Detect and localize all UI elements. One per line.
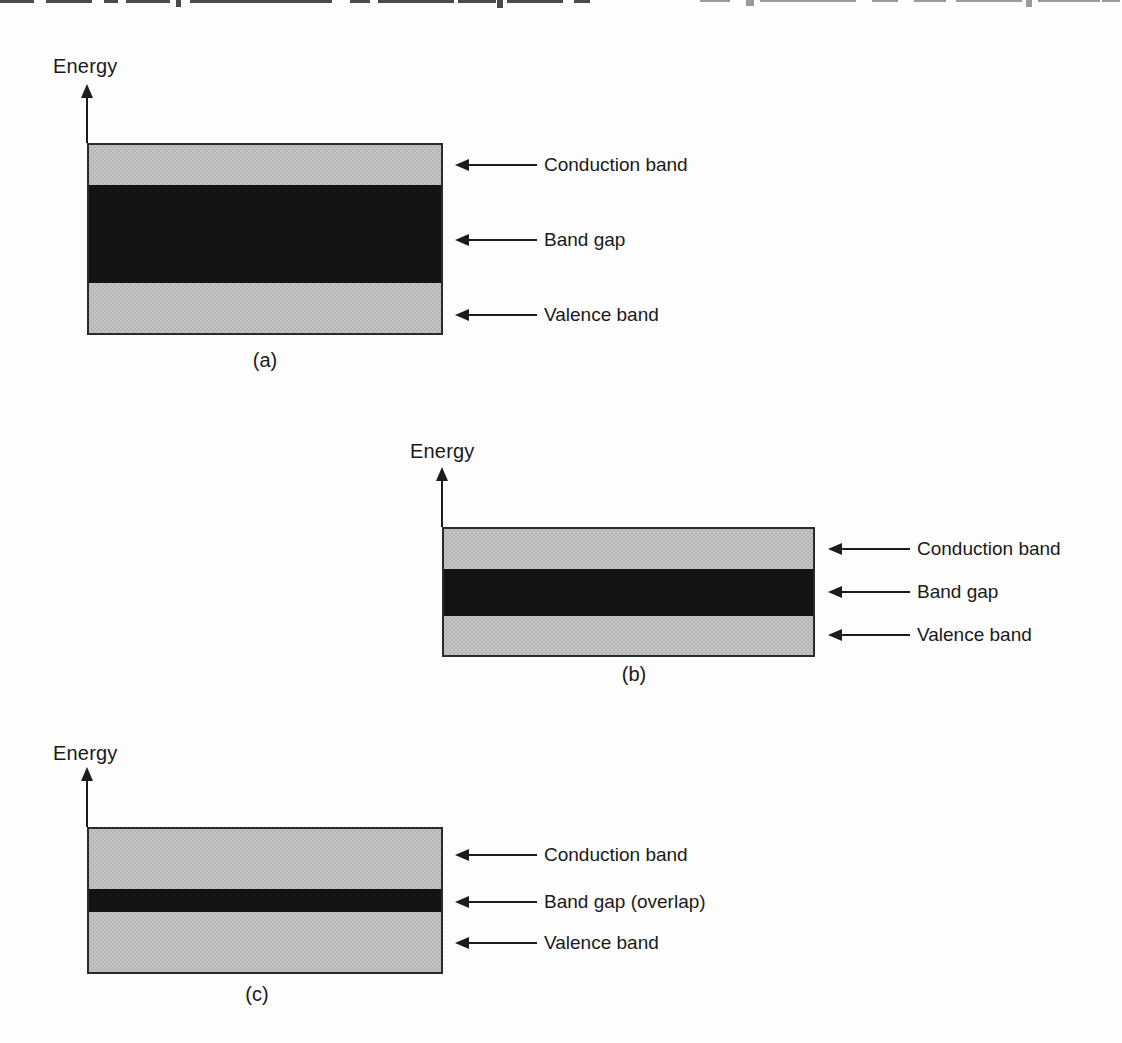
conduction-band-callout: Conduction band [828, 538, 1061, 560]
band-structure-rectangle [87, 827, 443, 974]
conduction-band-region [89, 829, 441, 889]
band-gap-callout: Band gap [455, 229, 625, 251]
valence-band-label: Valence band [544, 304, 659, 326]
energy-axis-label: Energy [53, 742, 118, 765]
left-arrow-icon [828, 629, 910, 641]
left-arrow-icon [455, 159, 537, 171]
valence-band-region [89, 912, 441, 972]
band-gap-overlap-label: Band gap (overlap) [544, 891, 706, 913]
conduction-band-label: Conduction band [544, 154, 688, 176]
left-arrow-icon [455, 937, 537, 949]
scanned-figure-page: Energy Conduction band Band gap Valence … [0, 0, 1122, 1043]
valence-band-label: Valence band [544, 932, 659, 954]
energy-axis-label: Energy [53, 55, 118, 78]
left-arrow-icon [455, 234, 537, 246]
energy-axis-line [441, 479, 443, 527]
valence-band-region [444, 616, 813, 655]
conduction-band-region [89, 145, 441, 185]
band-gap-region [89, 185, 441, 283]
conduction-band-callout: Conduction band [455, 844, 688, 866]
band-gap-callout: Band gap [828, 581, 998, 603]
left-arrow-icon [828, 586, 910, 598]
valence-band-callout: Valence band [455, 932, 659, 954]
valence-band-callout: Valence band [828, 624, 1032, 646]
band-gap-overlap-callout: Band gap (overlap) [455, 891, 706, 913]
energy-axis-line [86, 779, 88, 827]
conduction-band-label: Conduction band [544, 844, 688, 866]
subfigure-caption-c: (c) [240, 983, 274, 1006]
conduction-band-label: Conduction band [917, 538, 1061, 560]
band-gap-label: Band gap [544, 229, 625, 251]
left-arrow-icon [455, 896, 537, 908]
left-arrow-icon [828, 543, 910, 555]
valence-band-label: Valence band [917, 624, 1032, 646]
left-arrow-icon [455, 309, 537, 321]
valence-band-region [89, 283, 441, 333]
energy-axis-label: Energy [410, 440, 475, 463]
band-structure-rectangle [87, 143, 443, 335]
band-gap-label: Band gap [917, 581, 998, 603]
valence-band-callout: Valence band [455, 304, 659, 326]
band-gap-overlap-region [89, 889, 441, 912]
energy-axis-line [86, 96, 88, 143]
band-gap-region [444, 569, 813, 616]
subfigure-caption-b: (b) [617, 663, 651, 686]
band-structure-rectangle [442, 527, 815, 657]
subfigure-caption-a: (a) [248, 349, 282, 372]
conduction-band-callout: Conduction band [455, 154, 688, 176]
conduction-band-region [444, 529, 813, 569]
left-arrow-icon [455, 849, 537, 861]
